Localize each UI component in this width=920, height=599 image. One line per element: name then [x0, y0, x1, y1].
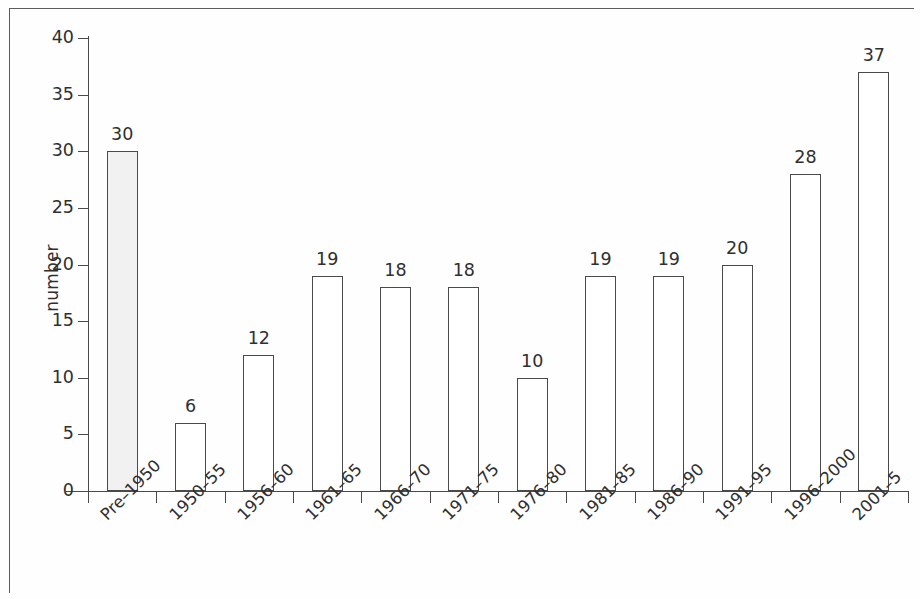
y-axis-tick-label: 40: [44, 29, 74, 47]
bar: [585, 276, 616, 491]
bar-value-label: 12: [229, 330, 289, 348]
x-axis-tick: [566, 491, 567, 503]
bar: [653, 276, 684, 491]
y-axis-tick: [78, 491, 88, 492]
bar: [448, 287, 479, 491]
bar-value-label: 18: [366, 262, 426, 280]
bar: [790, 174, 821, 491]
bar-value-label: 19: [571, 251, 631, 269]
bar: [722, 265, 753, 492]
x-axis-tick: [498, 491, 499, 503]
bar: [380, 287, 411, 491]
y-axis-tick-label: 20: [44, 256, 74, 274]
bar-value-label: 6: [161, 398, 221, 416]
x-axis-tick: [703, 491, 704, 503]
y-axis-line: [88, 36, 89, 492]
y-axis-tick-label: 0: [44, 482, 74, 500]
y-axis-tick: [78, 265, 88, 266]
y-axis-tick-label: 5: [44, 425, 74, 443]
bar: [243, 355, 274, 491]
bar-value-label: 10: [502, 353, 562, 371]
y-axis-tick-label: 35: [44, 86, 74, 104]
y-axis-tick-label: 25: [44, 199, 74, 217]
y-axis-tick: [78, 38, 88, 39]
y-axis-tick: [78, 95, 88, 96]
y-axis-tick: [78, 151, 88, 152]
x-axis-tick: [430, 491, 431, 503]
bar-value-label: 20: [707, 240, 767, 258]
x-axis-tick: [293, 491, 294, 503]
bar-value-label: 19: [297, 251, 357, 269]
x-axis-tick: [771, 491, 772, 503]
bar-chart-plot-area: number 0510152025303540 3061219181810191…: [0, 0, 920, 599]
x-axis-tick: [635, 491, 636, 503]
bar-value-label: 30: [92, 126, 152, 144]
y-axis-tick-label: 30: [44, 142, 74, 160]
x-axis-tick: [88, 491, 89, 503]
y-axis-tick-label: 15: [44, 312, 74, 330]
y-axis-tick: [78, 378, 88, 379]
y-axis-tick: [78, 434, 88, 435]
bar-value-label: 28: [776, 149, 836, 167]
bar: [858, 72, 889, 491]
bar-value-label: 18: [434, 262, 494, 280]
x-axis-tick: [361, 491, 362, 503]
x-axis-tick: [908, 491, 909, 503]
y-axis-tick: [78, 321, 88, 322]
x-axis-tick: [840, 491, 841, 503]
bar: [312, 276, 343, 491]
bar-value-label: 19: [639, 251, 699, 269]
bar: [107, 151, 138, 491]
x-axis-tick: [225, 491, 226, 503]
y-axis-tick-label: 10: [44, 369, 74, 387]
figure-page: number 0510152025303540 3061219181810191…: [0, 0, 920, 599]
y-axis-tick: [78, 208, 88, 209]
x-axis-tick: [156, 491, 157, 503]
bar-value-label: 37: [844, 47, 904, 65]
